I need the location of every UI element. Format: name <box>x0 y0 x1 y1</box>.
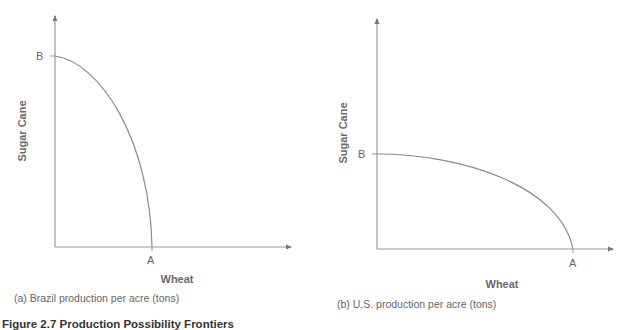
us-caption: (b) U.S. production per acre (tons) <box>337 298 496 310</box>
point-a-label: A <box>569 257 577 269</box>
point-b-label: B <box>358 148 365 160</box>
point-a-label: A <box>147 254 155 266</box>
us-chart: B A Sugar Cane Wheat <box>337 19 613 290</box>
brazil-chart: B A Sugar Cane Wheat <box>16 16 291 285</box>
figure-caption: Figure 2.7 Production Possibility Fronti… <box>2 318 234 330</box>
ppf-curve <box>377 154 573 249</box>
x-axis-label: Wheat <box>161 273 194 285</box>
x-axis-label: Wheat <box>486 278 519 290</box>
y-axis-label: Sugar Cane <box>16 100 28 161</box>
brazil-caption: (a) Brazil production per acre (tons) <box>14 292 179 304</box>
ppf-curve <box>55 56 152 247</box>
y-axis-label: Sugar Cane <box>337 102 349 163</box>
point-b-label: B <box>36 50 43 62</box>
